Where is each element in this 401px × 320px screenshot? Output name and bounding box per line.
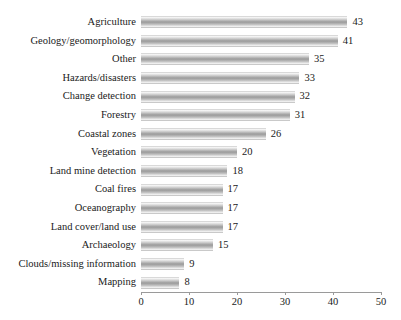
bar: [141, 72, 299, 84]
bar-value-label: 31: [295, 106, 306, 125]
bar: [141, 239, 213, 251]
bar: [141, 91, 295, 103]
bar-row: Other35: [0, 50, 401, 69]
bar-row: Forestry31: [0, 106, 401, 125]
bar-row: Mapping8: [0, 273, 401, 292]
bar: [141, 258, 184, 270]
bar-row: Coastal zones26: [0, 125, 401, 144]
category-label: Other: [0, 50, 136, 69]
bar-value-label: 17: [228, 180, 239, 199]
category-label: Clouds/missing information: [0, 255, 136, 274]
x-axis-tick-label: 50: [366, 295, 396, 309]
bar: [141, 35, 338, 47]
bar-row: Archaeology15: [0, 236, 401, 255]
x-axis-tick-label: 0: [126, 295, 156, 309]
x-axis-tick-label: 10: [174, 295, 204, 309]
category-label: Vegetation: [0, 143, 136, 162]
bar-value-label: 33: [304, 69, 315, 88]
bar-value-label: 17: [228, 199, 239, 218]
bar: [141, 277, 179, 289]
bar: [141, 109, 290, 121]
plot-area: Agriculture43Geology/geomorphology41Othe…: [0, 0, 401, 320]
category-label: Change detection: [0, 87, 136, 106]
bar-chart: Agriculture43Geology/geomorphology41Othe…: [0, 0, 401, 320]
bar-value-label: 20: [242, 143, 253, 162]
category-label: Forestry: [0, 106, 136, 125]
bar-row: Geology/geomorphology41: [0, 32, 401, 51]
bar-row: Vegetation20: [0, 143, 401, 162]
bar-value-label: 32: [300, 87, 311, 106]
bar-row: Land cover/land use17: [0, 218, 401, 237]
bar-row: Agriculture43: [0, 13, 401, 32]
bar-value-label: 35: [314, 50, 325, 69]
bar: [141, 146, 237, 158]
category-label: Oceanography: [0, 199, 136, 218]
x-axis-tick-label: 40: [318, 295, 348, 309]
bar-row: Hazards/disasters33: [0, 69, 401, 88]
bar: [141, 53, 309, 65]
category-label: Geology/geomorphology: [0, 32, 136, 51]
bar-value-label: 8: [184, 273, 189, 292]
category-label: Land cover/land use: [0, 218, 136, 237]
bar-row: Oceanography17: [0, 199, 401, 218]
category-label: Coal fires: [0, 180, 136, 199]
bar-value-label: 41: [343, 32, 354, 51]
x-axis-tick-label: 30: [270, 295, 300, 309]
bar: [141, 128, 266, 140]
category-label: Hazards/disasters: [0, 69, 136, 88]
bar-value-label: 43: [352, 13, 363, 32]
bar: [141, 165, 227, 177]
x-axis-tick-label: 20: [222, 295, 252, 309]
bar-value-label: 18: [232, 162, 243, 181]
bar-row: Coal fires17: [0, 180, 401, 199]
bar: [141, 16, 347, 28]
bar-value-label: 9: [189, 255, 194, 274]
bar-row: Change detection32: [0, 87, 401, 106]
bar: [141, 184, 223, 196]
category-label: Agriculture: [0, 13, 136, 32]
bar-value-label: 26: [271, 125, 282, 144]
category-label: Archaeology: [0, 236, 136, 255]
bar-row: Clouds/missing information9: [0, 255, 401, 274]
category-label: Mapping: [0, 273, 136, 292]
bar: [141, 202, 223, 214]
bar-row: Land mine detection18: [0, 162, 401, 181]
bar: [141, 221, 223, 233]
x-axis-line: [141, 292, 381, 293]
category-label: Land mine detection: [0, 162, 136, 181]
bar-value-label: 17: [228, 218, 239, 237]
bar-value-label: 15: [218, 236, 229, 255]
category-label: Coastal zones: [0, 125, 136, 144]
